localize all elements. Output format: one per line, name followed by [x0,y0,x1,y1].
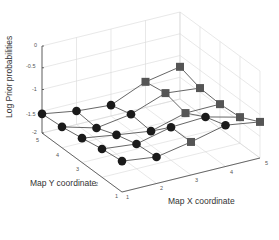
circle-marker [112,131,121,140]
circle-marker [98,145,107,154]
x-tick-3: 3 [195,177,198,183]
floor-gridline [62,114,200,148]
mesh-edge [226,122,261,125]
mesh-edge [157,142,192,157]
square-marker [196,84,204,92]
circle-marker [118,157,127,166]
y-tick-4: 4 [56,152,59,158]
circle-marker [92,124,101,133]
mesh-edge [62,127,97,128]
z-axis-label: Log Prior probabilities [4,36,14,118]
circle-marker [152,153,161,162]
square-marker [142,78,150,86]
mesh-edge [102,144,137,149]
circle-marker [72,107,81,116]
square-marker [236,113,244,121]
axes [42,46,260,192]
circle-marker [127,110,136,119]
mesh-edge [166,88,201,93]
square-marker [187,138,195,146]
circle-marker [167,123,176,132]
mesh-edge [186,104,221,113]
circle-marker [201,113,210,122]
z-tick-0: 0 [34,42,37,48]
circle-marker [221,121,230,130]
mesh-edge [77,105,112,111]
square-marker [176,63,184,71]
y-tick-5: 5 [36,137,39,143]
x-tick-2: 2 [160,185,163,191]
mesh-edge [97,114,132,128]
square-marker [162,89,170,97]
x-axis-label: Map X coordinate [168,196,235,206]
y-tick-2: 2 [95,181,98,187]
circle-marker [58,123,67,132]
y-axis-label: Map Y coordinate [30,178,96,188]
z-tick-neg0.5: -0.5 [26,63,35,69]
z-tick-neg2: -2 [32,129,37,135]
x-axis-line [122,158,260,192]
mesh-edge [82,135,117,138]
mesh-edge [146,67,181,82]
mesh-edge [171,117,206,127]
square-marker [182,109,190,117]
y-tick-1: 1 [115,193,118,199]
x-tick-1: 1 [126,194,129,200]
z-tick-neg1.5: -1.5 [26,111,35,117]
circle-marker [107,101,116,110]
z-tick-neg1: -1 [32,86,37,92]
mesh-edge [122,157,157,161]
circle-marker [147,127,156,136]
circle-marker [132,140,141,149]
mesh-edge [111,82,146,105]
mesh-edge [42,111,77,114]
y-tick-3: 3 [76,166,79,172]
circle-marker [78,134,87,143]
square-marker [216,100,224,108]
x-tick-5: 5 [265,160,268,166]
x-tick-4: 4 [230,169,233,175]
circle-marker [38,110,47,119]
mesh-edge [191,125,226,142]
square-marker [256,118,264,126]
